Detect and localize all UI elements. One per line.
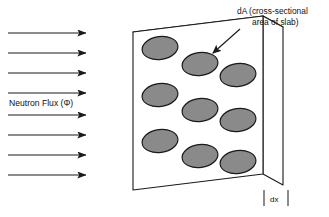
diagram-canvas: Neutron Flux (Φ) dA (cross-sectional are…	[0, 0, 329, 217]
neutron-flux-slab-diagram: Neutron Flux (Φ) dA (cross-sectional are…	[0, 0, 329, 217]
thickness-dimension: dx	[264, 190, 288, 206]
cross-sectional-area-label-line2: area of slab)	[252, 17, 299, 27]
slab-side-face	[263, 16, 283, 185]
cross-sectional-area-label-line1: dA (cross-sectional	[237, 6, 308, 16]
neutron-flux-label: Neutron Flux (Φ)	[9, 98, 73, 108]
thickness-label: dx	[270, 195, 278, 204]
